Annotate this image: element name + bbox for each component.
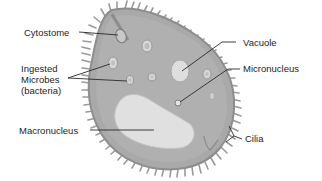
label-macronucleus: Macronucleus xyxy=(19,125,78,136)
label-vacuole: Vacuole xyxy=(243,37,277,48)
label-cytostome: Cytostome xyxy=(24,27,69,38)
label-ingested-microbes: Ingested Microbes (bacteria) xyxy=(21,63,61,96)
label-ingested-microbes-line3: (bacteria) xyxy=(21,85,61,96)
paramecium-diagram: Cytostome Ingested Microbes (bacteria) V… xyxy=(0,0,322,181)
micronucleus xyxy=(175,100,181,106)
label-ingested-microbes-line2: Microbes xyxy=(21,74,61,85)
label-micronucleus: Micronucleus xyxy=(243,63,299,74)
label-ingested-microbes-line1: Ingested xyxy=(21,63,61,74)
vacuole xyxy=(171,60,189,82)
label-cilia: Cilia xyxy=(245,133,263,144)
